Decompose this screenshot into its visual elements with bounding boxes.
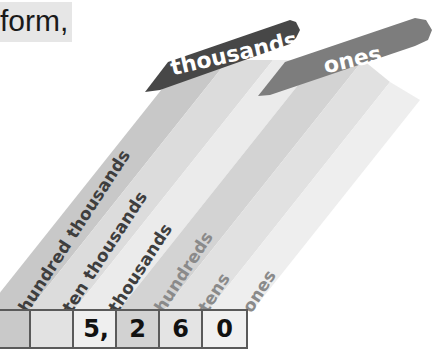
cell-thousands: 5, bbox=[74, 311, 117, 347]
place-value-chart: thousands ones hundred thousands ten tho… bbox=[0, 0, 433, 353]
cell-ten-thousands bbox=[31, 311, 74, 347]
cell-hundred-thousands bbox=[0, 311, 31, 347]
place-value-table: 5, 2 6 0 bbox=[0, 309, 248, 349]
cell-hundreds: 2 bbox=[117, 311, 160, 347]
cell-ones: 0 bbox=[203, 311, 246, 347]
cell-tens: 6 bbox=[160, 311, 203, 347]
